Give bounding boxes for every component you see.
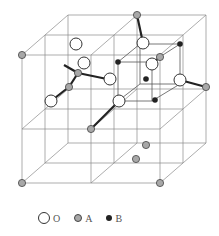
b-site-atom [115, 59, 121, 65]
a-site-atom [156, 179, 163, 186]
legend-label-a: A [85, 213, 92, 224]
oxygen-atom-icon [38, 212, 50, 224]
a-site-atom [74, 69, 81, 76]
oxygen-atom [104, 73, 116, 85]
legend-label-b: B [115, 213, 122, 224]
b-site-atom [177, 41, 183, 47]
b-site-atom [143, 76, 149, 82]
oxygen-atom [78, 57, 90, 69]
oxygen-atom [45, 95, 57, 107]
a-site-atom [133, 11, 140, 18]
a-site-atom [18, 51, 25, 58]
oxygen-atom [113, 95, 125, 107]
oxygen-atom [174, 74, 186, 86]
oxygen-atom [70, 38, 82, 50]
oxygen-atom [137, 37, 149, 49]
octant-subcube-edges [118, 44, 180, 101]
legend-item-a: A [74, 213, 92, 224]
oxygen-atom [146, 58, 158, 70]
a-site-atom [65, 83, 72, 90]
a-site-atom [18, 179, 25, 186]
legend-item-b: B [106, 213, 122, 224]
legend-label-oxygen: O [53, 213, 60, 224]
crystal-structure-diagram [0, 0, 219, 236]
legend: O A B [38, 211, 136, 225]
b-atom-icon [106, 215, 112, 221]
a-site-atom [142, 141, 149, 148]
a-site-atom [132, 155, 139, 162]
oxygen-atoms [45, 37, 186, 107]
b-site-atom [152, 97, 158, 103]
a-site-atom [202, 83, 209, 90]
a-site-atom [87, 125, 94, 132]
bond [78, 73, 107, 79]
a-atom-icon [74, 214, 82, 222]
b-site-atoms [115, 41, 183, 103]
legend-item-oxygen: O [38, 212, 60, 224]
a-site-atom [156, 53, 163, 60]
